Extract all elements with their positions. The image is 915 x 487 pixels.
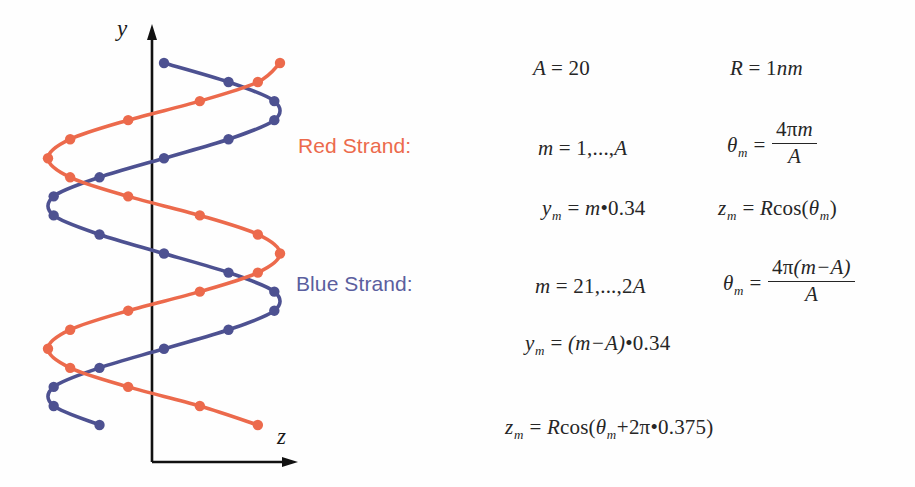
blue-strand-point-13 — [94, 172, 104, 182]
red-theta-coefficient: 4 — [776, 117, 787, 141]
helix-plot-panel: y z — [0, 0, 330, 487]
red-strand-label: Red Strand: — [298, 134, 411, 158]
red-z-close-paren: ) — [830, 196, 837, 220]
blue-z-symbol: z — [505, 415, 513, 439]
red-strand-point-16 — [123, 115, 133, 125]
red-strand-curve — [48, 63, 280, 425]
blue-strand-point-2 — [48, 382, 58, 392]
double-helix-figure: y z A = 20 R = 1nm Red Strand: m = 1,...… — [0, 0, 915, 487]
y-axis-arrowhead — [147, 24, 157, 40]
blue-z-equals: = — [529, 415, 541, 439]
R-equals: = — [748, 56, 760, 80]
red-strand-path — [48, 63, 280, 425]
red-z-theta: θ — [809, 196, 820, 220]
blue-theta-pi: π — [783, 255, 794, 279]
equation-blue-theta: θm = 4π(m−A) A — [723, 256, 856, 306]
red-strand-point-1 — [195, 401, 205, 411]
red-range-A: A — [614, 136, 627, 160]
equation-red-y: ym = m•0.34 — [542, 196, 646, 224]
red-z-symbol: z — [718, 196, 726, 220]
equation-red-range: m = 1,...,A — [538, 136, 627, 161]
blue-strand-point-16 — [269, 115, 279, 125]
blue-z-phase: 0.375 — [658, 415, 706, 439]
equations-panel: A = 20 R = 1nm Red Strand: m = 1,...,A θ… — [330, 0, 915, 487]
equation-blue-z: zm = Rcos(θm+2π•0.375) — [505, 415, 713, 443]
blue-y-dot: • — [625, 331, 633, 355]
red-y-symbol: y — [542, 196, 552, 220]
equation-A: A = 20 — [533, 56, 590, 81]
blue-strand-point-18 — [223, 77, 233, 87]
blue-y-subscript: m — [535, 343, 545, 358]
red-strand-point-18 — [253, 77, 263, 87]
red-y-var: m — [585, 196, 600, 220]
red-strand-point-17 — [195, 96, 205, 106]
R-unit: nm — [777, 56, 803, 80]
helix-chart-svg — [0, 0, 330, 487]
blue-strand-point-19 — [159, 58, 169, 68]
red-range-equals: = — [559, 136, 571, 160]
red-y-subscript: m — [552, 208, 562, 223]
blue-strand-point-14 — [159, 153, 169, 163]
red-strand-point-12 — [123, 191, 133, 201]
red-strand-point-2 — [123, 382, 133, 392]
red-theta-equals: = — [754, 133, 766, 157]
blue-range-A: A — [633, 274, 646, 298]
red-strand-point-5 — [65, 325, 75, 335]
red-z-radius: R — [760, 196, 773, 220]
blue-strand-point-0 — [94, 420, 104, 430]
blue-z-theta-subscript: m — [607, 427, 617, 442]
z-axis-label: z — [277, 424, 286, 450]
blue-range-m: m — [535, 274, 550, 298]
blue-strand-point-12 — [48, 191, 58, 201]
blue-z-radius: R — [547, 415, 560, 439]
blue-strand-point-8 — [223, 267, 233, 277]
red-range-m: m — [538, 136, 553, 160]
blue-strand-label: Blue Strand: — [296, 272, 413, 296]
red-strand-point-11 — [195, 210, 205, 220]
blue-strand-path — [48, 63, 280, 425]
blue-strand-point-17 — [269, 96, 279, 106]
blue-range-equals: = — [556, 274, 568, 298]
red-strand-point-7 — [195, 286, 205, 296]
red-theta-fraction: 4πm A — [772, 118, 817, 168]
red-z-cos: cos( — [773, 196, 809, 220]
red-y-rise: 0.34 — [608, 196, 646, 220]
blue-strand-point-5 — [223, 325, 233, 335]
red-strand-point-19 — [275, 58, 285, 68]
blue-y-expression: (m−A) — [568, 331, 625, 355]
A-value: 20 — [569, 56, 590, 80]
y-axis-label: y — [117, 16, 127, 42]
equation-blue-y: ym = (m−A)•0.34 — [525, 331, 670, 359]
red-theta-denominator: A — [772, 144, 817, 169]
blue-y-symbol: y — [525, 331, 535, 355]
red-strand-point-0 — [253, 420, 263, 430]
blue-z-theta: θ — [596, 415, 607, 439]
blue-strand-point-1 — [48, 401, 58, 411]
blue-strand-point-11 — [48, 210, 58, 220]
red-strand-point-14 — [43, 153, 53, 163]
equation-red-theta: θm = 4πm A — [727, 118, 818, 168]
blue-theta-numerator: 4π(m−A) — [768, 256, 855, 282]
red-range-values: 1,..., — [576, 136, 614, 160]
red-strand-point-15 — [65, 134, 75, 144]
red-strand-point-8 — [253, 267, 263, 277]
red-strand-point-13 — [65, 172, 75, 182]
blue-theta-equals: = — [750, 271, 762, 295]
red-strand-point-3 — [65, 363, 75, 373]
blue-strand-point-9 — [159, 248, 169, 258]
blue-y-rise: 0.34 — [633, 331, 671, 355]
R-value: 1 — [766, 56, 777, 80]
blue-z-subscript: m — [514, 427, 524, 442]
red-z-subscript: m — [727, 208, 737, 223]
blue-theta-expression: (m−A) — [794, 255, 851, 279]
blue-strand-point-15 — [223, 134, 233, 144]
blue-strand-point-10 — [94, 229, 104, 239]
red-theta-var: m — [798, 117, 813, 141]
red-z-theta-subscript: m — [820, 208, 830, 223]
red-strand-point-9 — [275, 248, 285, 258]
blue-y-equals: = — [551, 331, 563, 355]
blue-theta-symbol: θ — [723, 271, 734, 295]
red-theta-subscript: m — [738, 145, 748, 160]
red-z-equals: = — [742, 196, 754, 220]
red-y-dot: • — [600, 196, 608, 220]
